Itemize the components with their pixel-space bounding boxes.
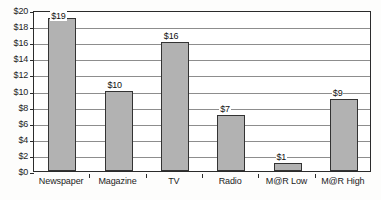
- gridline: [34, 60, 370, 61]
- y-axis-tick-label: $10: [14, 87, 28, 97]
- y-axis-tick-label: $20: [14, 6, 28, 16]
- gridline: [34, 44, 370, 45]
- y-axis-tick-label: $16: [14, 38, 28, 48]
- x-axis-tick-mark: [258, 174, 259, 178]
- y-axis-tick-label: $4: [18, 135, 28, 145]
- bar-value-label: $16: [163, 31, 179, 41]
- x-axis-tick-mark: [89, 174, 90, 178]
- gridline: [34, 93, 370, 94]
- y-axis: $0$2$4$6$8$10$12$14$16$18$20: [0, 0, 33, 200]
- y-axis-tick-mark: [30, 157, 34, 158]
- y-axis-tick-label: $14: [14, 54, 28, 64]
- plot-area: $19$10$16$7$1$9: [33, 11, 371, 172]
- y-axis-tick-label: $2: [18, 151, 28, 161]
- y-axis-tick-label: $6: [18, 119, 28, 129]
- x-axis-tick-mark: [202, 174, 203, 178]
- gridline: [34, 28, 370, 29]
- bar: [330, 99, 358, 171]
- y-axis-tick-mark: [30, 141, 34, 142]
- gridline: [34, 109, 370, 110]
- y-axis-tick-mark: [30, 60, 34, 61]
- bar: [48, 18, 76, 171]
- y-axis-tick-mark: [30, 76, 34, 77]
- y-axis-tick-label: $12: [14, 70, 28, 80]
- bar: [105, 91, 133, 172]
- y-axis-tick-mark: [30, 125, 34, 126]
- bar-value-label: $1: [276, 152, 288, 162]
- bar-value-label: $19: [50, 11, 66, 21]
- bar-value-label: $9: [332, 88, 344, 98]
- y-axis-tick-mark: [30, 109, 34, 110]
- x-axis: NewspaperMagazineTVRadioM@R LowM@R High: [33, 174, 371, 200]
- x-axis-tick-label: Radio: [219, 176, 242, 186]
- bar: [161, 42, 189, 171]
- y-axis-tick-label: $18: [14, 22, 28, 32]
- gridline: [34, 76, 370, 77]
- bar: [274, 163, 302, 171]
- y-axis-tick-mark: [30, 12, 34, 13]
- bar-value-label: $7: [219, 104, 231, 114]
- gridline: [34, 141, 370, 142]
- bar: [217, 115, 245, 171]
- bar-value-label: $10: [107, 80, 123, 90]
- gridline: [34, 125, 370, 126]
- x-axis-tick-mark: [315, 174, 316, 178]
- bar-chart-figure: $0$2$4$6$8$10$12$14$16$18$20 $19$10$16$7…: [0, 0, 381, 200]
- y-axis-tick-mark: [30, 44, 34, 45]
- x-axis-tick-mark: [146, 174, 147, 178]
- gridline: [34, 157, 370, 158]
- x-axis-tick-label: M@R High: [321, 176, 364, 186]
- y-axis-tick-mark: [30, 93, 34, 94]
- x-axis-tick-label: Newspaper: [39, 176, 84, 186]
- x-axis-tick-label: M@R Low: [266, 176, 307, 186]
- y-axis-tick-mark: [30, 28, 34, 29]
- x-axis-tick-label: TV: [168, 176, 179, 186]
- y-axis-tick-label: $8: [18, 103, 28, 113]
- x-axis-tick-label: Magazine: [98, 176, 136, 186]
- y-axis-tick-label: $0: [18, 167, 28, 177]
